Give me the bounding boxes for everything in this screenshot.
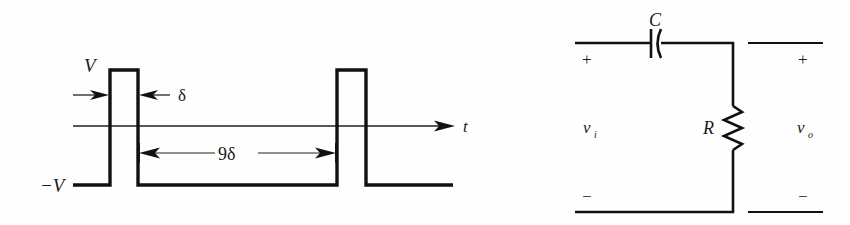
label-resistor: R	[702, 118, 714, 138]
delta-dimension	[73, 90, 170, 100]
waveform-group: V −V t δ 9δ	[40, 55, 469, 196]
time-axis	[73, 121, 455, 132]
label-output-voltage-sub: o	[808, 129, 813, 140]
label-capacitor: C	[649, 10, 662, 30]
label-pulse-width: δ	[178, 86, 186, 105]
pulse-train-path	[73, 70, 453, 185]
label-input-voltage-main: v	[583, 118, 591, 137]
label-output-plus: +	[798, 50, 808, 69]
label-output-voltage: v o	[797, 118, 813, 140]
label-input-voltage: v i	[583, 118, 597, 140]
label-input-voltage-sub: i	[594, 129, 597, 140]
label-input-minus: −	[582, 187, 592, 206]
label-input-plus: +	[582, 50, 592, 69]
label-pulse-gap: 9δ	[218, 144, 235, 164]
nine-delta-dimension	[139, 143, 337, 163]
resistor-symbol	[724, 106, 742, 150]
label-output-minus: −	[798, 187, 808, 206]
figure-svg: V −V t δ 9δ	[0, 0, 850, 225]
circuit-group: C R + − + − v i v o	[575, 10, 823, 213]
label-time-axis: t	[463, 117, 469, 136]
figure-container: V −V t δ 9δ	[0, 0, 850, 225]
label-output-voltage-main: v	[797, 118, 805, 137]
label-amplitude-low: −V	[40, 175, 67, 196]
capacitor-symbol	[651, 29, 661, 58]
label-amplitude-high: V	[84, 55, 98, 76]
